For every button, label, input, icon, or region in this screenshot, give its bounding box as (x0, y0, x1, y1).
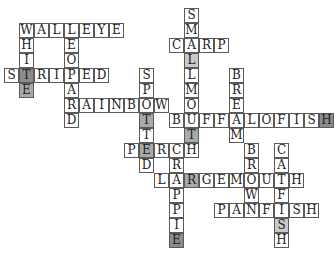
crossword-cell[interactable]: A (229, 113, 244, 128)
crossword-cell[interactable]: D (139, 158, 154, 173)
crossword-cell[interactable]: R (229, 83, 244, 98)
crossword-cell[interactable]: G (199, 173, 214, 188)
crossword-cell[interactable]: B (124, 98, 139, 113)
crossword-cell[interactable]: E (139, 143, 154, 158)
crossword-cell[interactable]: W (244, 188, 259, 203)
crossword-cell[interactable]: A (229, 203, 244, 218)
crossword-cell[interactable]: H (184, 143, 199, 158)
crossword-cell[interactable]: L (244, 113, 259, 128)
crossword-cell[interactable]: Y (94, 23, 109, 38)
crossword-cell[interactable]: W (19, 23, 34, 38)
crossword-cell[interactable]: M (184, 23, 199, 38)
crossword-cell[interactable]: H (19, 38, 34, 53)
crossword-cell[interactable]: E (229, 98, 244, 113)
crossword-cell[interactable]: A (274, 158, 289, 173)
crossword-cell[interactable]: P (64, 68, 79, 83)
crossword-cell[interactable]: O (244, 173, 259, 188)
crossword-cell[interactable]: B (244, 143, 259, 158)
crossword-cell[interactable]: F (199, 113, 214, 128)
crossword-cell[interactable]: H (304, 203, 319, 218)
crossword-cell[interactable]: E (109, 23, 124, 38)
crossword-cell[interactable]: S (304, 113, 319, 128)
crossword-cell[interactable]: F (214, 113, 229, 128)
crossword-cell[interactable]: E (64, 38, 79, 53)
crossword-cell[interactable]: E (79, 23, 94, 38)
crossword-cell[interactable]: L (154, 173, 169, 188)
crossword-cell[interactable]: T (184, 128, 199, 143)
crossword-cell[interactable]: C (169, 143, 184, 158)
crossword-cell[interactable]: W (154, 98, 169, 113)
crossword-cell[interactable]: R (184, 173, 199, 188)
crossword-cell[interactable]: R (34, 68, 49, 83)
crossword-cell[interactable]: T (139, 113, 154, 128)
crossword-cell[interactable]: A (34, 23, 49, 38)
crossword-cell[interactable]: S (289, 203, 304, 218)
crossword-cell[interactable]: P (214, 38, 229, 53)
crossword-cell[interactable]: E (79, 68, 94, 83)
crossword-cell[interactable]: C (274, 143, 289, 158)
crossword-cell[interactable]: R (154, 143, 169, 158)
crossword-cell[interactable]: H (319, 113, 334, 128)
crossword-cell[interactable]: F (274, 188, 289, 203)
crossword-cell[interactable]: N (244, 203, 259, 218)
crossword-cell[interactable]: R (64, 98, 79, 113)
crossword-cell[interactable]: D (64, 113, 79, 128)
crossword-cell[interactable]: I (49, 68, 64, 83)
crossword-cell[interactable]: P (139, 83, 154, 98)
crossword-cell[interactable]: R (169, 158, 184, 173)
crossword-cell[interactable]: T (19, 68, 34, 83)
crossword-cell[interactable]: M (229, 128, 244, 143)
crossword-cell[interactable]: A (169, 173, 184, 188)
crossword-grid: SMALLMOUTHWALLEYEHITEEOPARDCRPSRIEDSPOTT… (0, 0, 336, 264)
crossword-cell[interactable]: O (64, 53, 79, 68)
crossword-cell[interactable]: N (109, 98, 124, 113)
crossword-cell[interactable]: S (4, 68, 19, 83)
crossword-cell[interactable]: L (184, 68, 199, 83)
crossword-cell[interactable]: S (184, 8, 199, 23)
crossword-cell[interactable]: E (214, 173, 229, 188)
crossword-cell[interactable]: E (169, 233, 184, 248)
crossword-cell[interactable]: A (184, 38, 199, 53)
crossword-cell[interactable]: H (289, 173, 304, 188)
crossword-cell[interactable]: S (139, 68, 154, 83)
crossword-cell[interactable]: M (229, 173, 244, 188)
crossword-cell[interactable]: R (199, 38, 214, 53)
crossword-cell[interactable]: I (289, 113, 304, 128)
crossword-cell[interactable]: U (259, 173, 274, 188)
crossword-cell[interactable]: L (184, 53, 199, 68)
crossword-cell[interactable]: D (94, 68, 109, 83)
crossword-cell[interactable]: A (64, 83, 79, 98)
crossword-cell[interactable]: O (139, 98, 154, 113)
crossword-cell[interactable]: L (64, 23, 79, 38)
crossword-cell[interactable]: M (184, 83, 199, 98)
crossword-cell[interactable]: A (79, 98, 94, 113)
crossword-cell[interactable]: B (169, 113, 184, 128)
crossword-cell[interactable]: P (169, 203, 184, 218)
crossword-cell[interactable]: P (169, 188, 184, 203)
crossword-cell[interactable]: E (19, 83, 34, 98)
crossword-cell[interactable]: F (274, 113, 289, 128)
crossword-cell[interactable]: T (139, 128, 154, 143)
crossword-cell[interactable]: P (214, 203, 229, 218)
crossword-cell[interactable]: I (94, 98, 109, 113)
crossword-cell[interactable]: S (274, 218, 289, 233)
crossword-cell[interactable]: I (169, 218, 184, 233)
crossword-cell[interactable]: U (184, 113, 199, 128)
crossword-cell[interactable]: C (169, 38, 184, 53)
crossword-cell[interactable]: L (49, 23, 64, 38)
crossword-cell[interactable]: I (19, 53, 34, 68)
crossword-cell[interactable]: P (124, 143, 139, 158)
crossword-cell[interactable]: H (274, 233, 289, 248)
crossword-cell[interactable]: T (274, 173, 289, 188)
crossword-cell[interactable]: O (259, 113, 274, 128)
crossword-cell[interactable]: I (274, 203, 289, 218)
crossword-cell[interactable]: F (259, 203, 274, 218)
crossword-cell[interactable]: O (184, 98, 199, 113)
crossword-cell[interactable]: R (244, 158, 259, 173)
crossword-cell[interactable]: B (229, 68, 244, 83)
